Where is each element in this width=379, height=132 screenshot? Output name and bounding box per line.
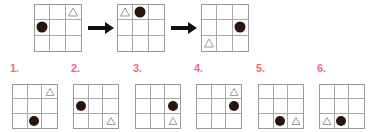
grid-cell [349,85,364,99]
grid-cell [320,99,335,113]
grid-cell [212,85,227,99]
grid-cell [320,85,335,99]
grid-cell [151,114,166,128]
outline-triangle-icon [291,116,301,125]
grid-cell [42,99,57,113]
filled-circle-icon [37,22,48,33]
option-number-label: 4. [194,62,203,74]
grid-cell [50,5,65,20]
grid-cell [149,20,164,35]
sequence-grid-3 [201,4,249,52]
grid-cell [66,20,81,35]
grid-cell [151,99,166,113]
grid-cell [28,85,43,99]
outline-triangle-icon [45,87,55,96]
grid-cell [13,85,28,99]
option-number-label: 1. [10,62,19,74]
grid-cell [13,99,28,113]
sequence-grid-1 [34,4,82,52]
grid-cell [50,20,65,35]
filled-circle-icon [168,101,178,111]
grid-cell [66,36,81,51]
option-number-label: 2. [71,62,80,74]
grid-cell [66,5,81,20]
grid-cell [89,99,104,113]
grid-cell [320,114,335,128]
grid-cell [226,85,241,99]
grid-cell [202,20,217,35]
grid-cell [233,20,248,35]
grid-cell [151,85,166,99]
outline-triangle-icon [168,116,178,125]
grid-cell [28,114,43,128]
option-number-label: 3. [133,62,142,74]
option-grid-5[interactable] [258,84,304,129]
grid-cell [35,20,50,35]
filled-circle-icon [135,7,146,18]
grid-cell [133,20,148,35]
right-arrow-icon [88,22,115,34]
grid-cell [74,114,89,128]
option-grid-2[interactable] [73,84,119,129]
grid-cell [149,5,164,20]
grid-cell [133,5,148,20]
grid-cell [212,114,227,128]
right-arrow-icon [171,22,198,34]
grid-cell [42,85,57,99]
grid-cell [217,20,232,35]
grid-cell [288,114,303,128]
grid-cell [212,99,227,113]
grid-cell [118,36,133,51]
filled-circle-icon [76,101,86,111]
option-number-label: 6. [317,62,326,74]
grid-cell [197,99,212,113]
grid-cell [335,85,350,99]
grid-cell [259,85,274,99]
option-grid-3[interactable] [135,84,181,129]
grid-cell [349,99,364,113]
grid-cell [335,99,350,113]
filled-circle-icon [229,101,239,111]
grid-cell [42,114,57,128]
grid-cell [35,36,50,51]
grid-cell [118,5,133,20]
grid-cell [50,36,65,51]
outline-triangle-icon [204,38,215,48]
grid-cell [165,99,180,113]
filled-circle-icon [336,116,346,126]
grid-cell [226,114,241,128]
grid-cell [217,5,232,20]
option-grid-1[interactable] [12,84,58,129]
grid-cell [288,99,303,113]
grid-cell [28,99,43,113]
grid-cell [133,36,148,51]
grid-cell [149,36,164,51]
option-grid-6[interactable] [319,84,365,129]
grid-cell [136,114,151,128]
grid-cell [103,99,118,113]
grid-cell [335,114,350,128]
grid-cell [197,114,212,128]
grid-cell [103,114,118,128]
arrow-head [105,22,114,34]
grid-cell [226,99,241,113]
grid-cell [165,85,180,99]
option-number-label: 5. [256,62,265,74]
grid-cell [197,85,212,99]
arrow-head [188,22,197,34]
grid-cell [349,114,364,128]
outline-triangle-icon [68,7,79,17]
grid-cell [233,5,248,20]
grid-cell [202,36,217,51]
grid-cell [74,85,89,99]
filled-circle-icon [235,22,246,33]
option-grid-4[interactable] [196,84,242,129]
outline-triangle-icon [229,87,239,96]
grid-cell [118,20,133,35]
grid-cell [233,36,248,51]
sequence-grid-2 [117,4,165,52]
grid-cell [89,85,104,99]
grid-cell [89,114,104,128]
grid-cell [136,85,151,99]
grid-cell [288,85,303,99]
